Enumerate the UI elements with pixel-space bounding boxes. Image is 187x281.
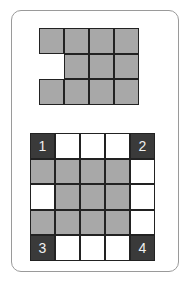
board-cell — [130, 184, 155, 210]
corner-number-label: 3 — [39, 240, 47, 256]
target-shape-cell — [114, 28, 139, 54]
board-cell: 3 — [30, 235, 55, 261]
target-shape-cell — [64, 54, 89, 80]
board-grid: 1234 — [30, 133, 155, 261]
target-shape-cell — [89, 79, 114, 105]
target-shape-cell — [64, 79, 89, 105]
board-cell: 1 — [30, 133, 55, 159]
target-shape-cell — [114, 54, 139, 80]
corner-number-label: 2 — [139, 138, 147, 154]
corner-number-label: 1 — [39, 138, 47, 154]
target-shape-grid — [39, 28, 139, 105]
board-cell — [80, 159, 105, 185]
board-cell — [105, 235, 130, 261]
board-cell — [55, 159, 80, 185]
board-cell — [30, 210, 55, 236]
board-cell — [55, 184, 80, 210]
board-cell — [80, 235, 105, 261]
board-cell — [105, 210, 130, 236]
corner-number-label: 4 — [139, 240, 147, 256]
board-cell — [80, 210, 105, 236]
board-cell — [105, 159, 130, 185]
target-shape-cell — [89, 28, 114, 54]
board-cell: 4 — [130, 235, 155, 261]
board-cell — [105, 133, 130, 159]
board-cell — [55, 133, 80, 159]
target-shape-cell — [39, 79, 64, 105]
target-shape-cell — [114, 79, 139, 105]
board-cell — [30, 159, 55, 185]
board-cell — [80, 184, 105, 210]
target-shape-cell — [39, 54, 64, 80]
board-cell — [55, 210, 80, 236]
target-shape-cell — [64, 28, 89, 54]
board-cell — [55, 235, 80, 261]
board-cell: 2 — [130, 133, 155, 159]
board-cell — [130, 210, 155, 236]
board-cell — [130, 159, 155, 185]
target-shape-cell — [89, 54, 114, 80]
board-cell — [30, 184, 55, 210]
target-shape-cell — [39, 28, 64, 54]
board-cell — [105, 184, 130, 210]
board-cell — [80, 133, 105, 159]
